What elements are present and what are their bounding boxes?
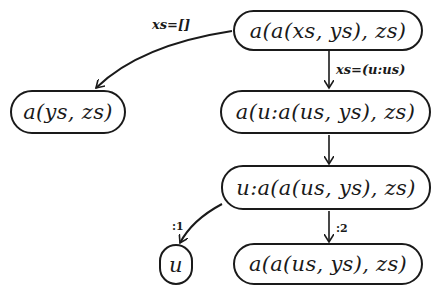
edge-label-empty: xs=[] <box>152 17 190 32</box>
node-root: a(a(xs, ys), zs) <box>233 10 423 51</box>
node-cons-case: a(u:a(us, ys), zs) <box>220 90 431 134</box>
edge-label-second: :2 <box>336 222 348 235</box>
node-tail: a(a(us, ys), zs) <box>233 243 423 285</box>
edge-n1-n2 <box>96 31 232 88</box>
rewrite-diagram: a(a(xs, ys), zs) a(ys, zs) a(u:a(us, ys)… <box>0 0 434 293</box>
edge-label-first: :1 <box>172 220 184 233</box>
edge-n4-n5 <box>180 204 222 243</box>
edge-label-cons: xs=(u:us) <box>336 62 405 77</box>
node-rewritten: u:a(a(us, ys), zs) <box>221 165 431 210</box>
node-empty-case: a(ys, zs) <box>10 90 126 134</box>
node-head: u <box>159 244 193 285</box>
